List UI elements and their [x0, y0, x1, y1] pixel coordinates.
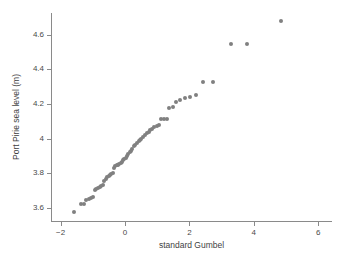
x-tick-mark [254, 222, 255, 226]
x-tick-label: 6 [303, 228, 333, 238]
y-tick-mark [47, 208, 51, 209]
y-tick-mark [47, 69, 51, 70]
data-point [72, 210, 76, 214]
data-point [279, 19, 283, 23]
data-point [194, 93, 198, 97]
scatter-plot-area [51, 12, 331, 220]
x-tick-label: 2 [174, 228, 204, 238]
data-point [178, 98, 182, 102]
data-point [91, 195, 95, 199]
chart-figure: −20246 3.63.844.24.44.6 standard Gumbel … [0, 0, 350, 260]
y-tick-mark [47, 139, 51, 140]
data-point [157, 123, 161, 127]
data-point [111, 171, 115, 175]
y-tick-mark [47, 35, 51, 36]
y-tick-mark [47, 173, 51, 174]
data-point [201, 80, 205, 84]
data-point [82, 202, 86, 206]
data-point [245, 42, 249, 46]
y-axis-line [51, 13, 52, 221]
x-tick-mark [318, 222, 319, 226]
x-axis-line [51, 221, 332, 222]
x-tick-label: −2 [46, 228, 76, 238]
x-tick-mark [189, 222, 190, 226]
y-tick-mark [47, 104, 51, 105]
data-point [171, 105, 175, 109]
x-tick-mark [61, 222, 62, 226]
x-tick-mark [125, 222, 126, 226]
y-axis-title: Port Pirie sea level (m) [10, 13, 22, 221]
data-point [183, 96, 187, 100]
data-point [211, 80, 215, 84]
x-tick-label: 4 [239, 228, 269, 238]
data-point [188, 95, 192, 99]
data-point [165, 117, 169, 121]
x-tick-label: 0 [110, 228, 140, 238]
x-axis-title: standard Gumbel [51, 240, 332, 251]
data-point [101, 183, 105, 187]
data-point [229, 42, 233, 46]
